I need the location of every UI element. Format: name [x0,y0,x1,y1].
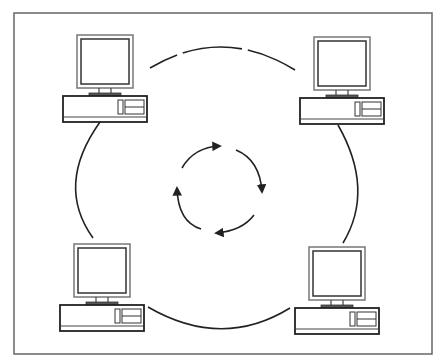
ring-network-diagram [0,0,447,361]
flow-arrow-bottom [216,215,254,233]
computer-top-right-icon [300,37,384,124]
ring-arc-bottom [148,307,290,329]
flow-indicator [177,146,262,233]
ring-arc-right [338,125,358,243]
flow-arrow-top [182,146,220,168]
flow-arrow-left [177,188,201,229]
computer-bottom-left-icon [60,244,144,331]
computer-bottom-right-icon [295,247,379,334]
flow-arrow-right [236,150,262,192]
ring-arc-left [76,122,100,238]
computer-top-left-icon [63,35,147,122]
ring-arc-top [150,47,295,70]
